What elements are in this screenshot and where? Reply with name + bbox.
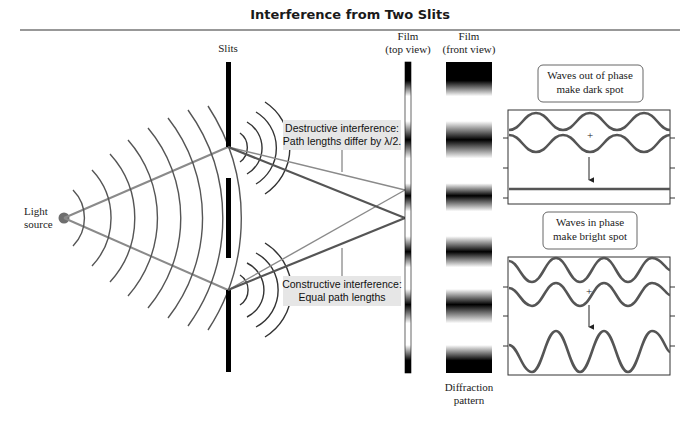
- slits-label: Slits: [218, 42, 238, 54]
- film-top-label-line2: (top view): [385, 43, 431, 56]
- light-source-label-line2: source: [24, 218, 53, 230]
- svg-text:make dark spot: make dark spot: [556, 83, 623, 95]
- svg-text:Destructive interference:: Destructive interference:: [285, 122, 399, 134]
- diffraction-label-line1: Diffraction: [445, 381, 494, 393]
- in-phase-panel: +: [503, 257, 675, 375]
- out-of-phase-label: Waves out of phase make dark spot: [538, 65, 643, 102]
- svg-text:Path lengths differ by λ/2.: Path lengths differ by λ/2.: [283, 135, 401, 147]
- svg-text:make bright spot: make bright spot: [553, 230, 627, 242]
- destructive-callout: Destructive interference: Path lengths d…: [283, 120, 401, 150]
- film-top-view: [405, 62, 411, 373]
- film-top-label-line1: Film: [398, 30, 419, 42]
- constructive-callout: Constructive interference: Equal path le…: [282, 276, 402, 306]
- slit-barrier: [226, 62, 231, 372]
- svg-text:Equal path lengths: Equal path lengths: [299, 291, 386, 303]
- svg-text:Constructive interference:: Constructive interference:: [282, 278, 402, 290]
- film-front-label-line1: Film: [459, 30, 480, 42]
- source-wavefronts: [73, 106, 241, 330]
- svg-text:+: +: [586, 285, 592, 297]
- out-of-phase-panel: +: [503, 110, 675, 204]
- diffraction-label-line2: pattern: [454, 394, 485, 406]
- film-front-label-line2: (front view): [443, 43, 496, 56]
- svg-text:Waves out of phase: Waves out of phase: [547, 69, 633, 81]
- film-front-view: [446, 62, 492, 373]
- two-slit-diagram: Interference from Two Slits Light source…: [0, 0, 700, 421]
- svg-text:+: +: [587, 129, 593, 141]
- in-phase-label: Waves in phase make bright spot: [543, 212, 637, 249]
- light-source-label-line1: Light: [24, 205, 48, 217]
- svg-text:Waves in phase: Waves in phase: [556, 216, 624, 228]
- diagram-title: Interference from Two Slits: [250, 7, 450, 22]
